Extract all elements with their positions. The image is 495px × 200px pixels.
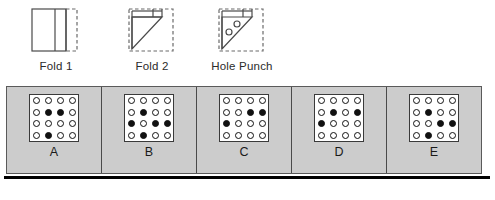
filled-hole-dot [57, 109, 64, 116]
dot-grid-d [314, 94, 364, 142]
fold-2-figure [124, 6, 180, 54]
filled-hole-dot [152, 120, 159, 127]
open-hole-dot [425, 120, 432, 127]
open-hole-dot [235, 132, 242, 139]
answer-option-c[interactable]: C [197, 87, 292, 173]
open-hole-dot [69, 120, 76, 127]
fold-1-label: Fold 1 [8, 60, 104, 73]
filled-hole-dot [140, 109, 147, 116]
open-hole-dot [235, 120, 242, 127]
filled-hole-dot [164, 120, 171, 127]
fold-sequence-diagram: Fold 1 Fold 2 [0, 0, 495, 84]
open-hole-dot [223, 132, 230, 139]
answer-option-letter: D [334, 145, 343, 159]
filled-hole-dot [223, 120, 230, 127]
open-hole-dot [164, 109, 171, 116]
open-hole-dot [247, 132, 254, 139]
answer-option-b[interactable]: B [102, 87, 197, 173]
filled-hole-dot [425, 109, 432, 116]
open-hole-dot [128, 132, 135, 139]
open-hole-dot [57, 97, 64, 104]
open-hole-dot [33, 120, 40, 127]
open-hole-dot [128, 109, 135, 116]
filled-hole-dot [354, 109, 361, 116]
answer-option-letter: A [50, 145, 58, 159]
filled-hole-dot [330, 109, 337, 116]
fold-step-fold-2: Fold 2 [104, 6, 200, 73]
open-hole-dot [318, 132, 325, 139]
open-hole-dot [437, 132, 444, 139]
open-hole-dot [152, 109, 159, 116]
filled-hole-dot [247, 109, 254, 116]
open-hole-dot [247, 120, 254, 127]
open-hole-dot [425, 97, 432, 104]
open-hole-dot [57, 120, 64, 127]
open-hole-dot [330, 97, 337, 104]
open-hole-dot [437, 109, 444, 116]
open-hole-dot [330, 132, 337, 139]
answer-option-letter: C [239, 145, 248, 159]
filled-hole-dot [259, 109, 266, 116]
open-hole-dot [449, 109, 456, 116]
open-hole-dot [152, 97, 159, 104]
open-hole-dot [449, 132, 456, 139]
panel-baseline-rule [4, 176, 490, 179]
hole-punch-label: Hole Punch [194, 60, 290, 73]
open-hole-dot [259, 97, 266, 104]
answer-option-a[interactable]: A [7, 87, 102, 173]
open-hole-dot [45, 120, 52, 127]
fold-1-figure [28, 6, 84, 54]
open-hole-dot [318, 109, 325, 116]
open-hole-dot [247, 97, 254, 104]
filled-hole-dot [318, 120, 325, 127]
open-hole-dot [413, 132, 420, 139]
open-hole-dot [342, 97, 349, 104]
dot-grid-e [409, 94, 459, 142]
filled-hole-dot [45, 132, 52, 139]
filled-hole-dot [45, 109, 52, 116]
fold-step-fold-1: Fold 1 [8, 6, 104, 73]
open-hole-dot [235, 97, 242, 104]
open-hole-dot [69, 97, 76, 104]
answer-options-panel: ABCDE [6, 86, 482, 174]
open-hole-dot [223, 109, 230, 116]
open-hole-dot [330, 120, 337, 127]
open-hole-dot [235, 109, 242, 116]
open-hole-dot [152, 132, 159, 139]
punched-hole-2 [226, 29, 232, 35]
answer-option-e[interactable]: E [387, 87, 481, 173]
open-hole-dot [164, 97, 171, 104]
dot-grid-c [219, 94, 269, 142]
open-hole-dot [69, 109, 76, 116]
open-hole-dot [45, 97, 52, 104]
answer-option-letter: E [430, 145, 438, 159]
open-hole-dot [223, 97, 230, 104]
open-hole-dot [354, 120, 361, 127]
open-hole-dot [259, 132, 266, 139]
fold-step-hole-punch: Hole Punch [194, 6, 290, 73]
open-hole-dot [354, 132, 361, 139]
open-hole-dot [413, 109, 420, 116]
open-hole-dot [140, 97, 147, 104]
open-hole-dot [342, 120, 349, 127]
dot-grid-a [29, 94, 79, 142]
open-hole-dot [342, 132, 349, 139]
open-hole-dot [33, 97, 40, 104]
filled-hole-dot [128, 120, 135, 127]
open-hole-dot [318, 97, 325, 104]
hole-punch-figure [210, 6, 274, 54]
punched-hole-1 [234, 21, 240, 27]
filled-hole-dot [425, 132, 432, 139]
open-hole-dot [342, 109, 349, 116]
fold-2-label: Fold 2 [104, 60, 200, 73]
open-hole-dot [413, 120, 420, 127]
open-hole-dot [140, 120, 147, 127]
open-hole-dot [69, 132, 76, 139]
open-hole-dot [449, 97, 456, 104]
open-hole-dot [437, 97, 444, 104]
dot-grid-b [124, 94, 174, 142]
answer-option-d[interactable]: D [292, 87, 387, 173]
answer-option-letter: B [145, 145, 153, 159]
open-hole-dot [259, 120, 266, 127]
open-hole-dot [164, 132, 171, 139]
